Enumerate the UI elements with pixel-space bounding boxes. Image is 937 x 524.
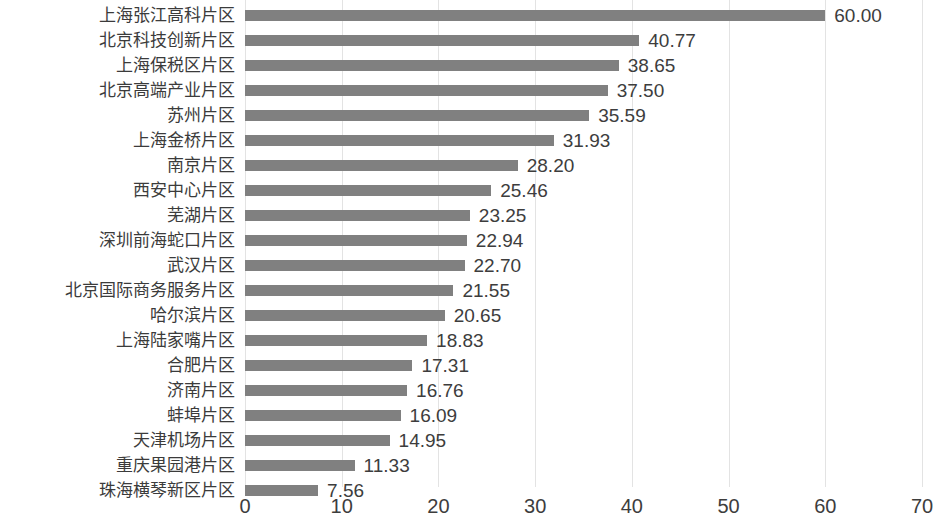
category-label: 上海保税区片区 xyxy=(0,53,235,78)
value-label: 18.83 xyxy=(436,328,484,353)
bar-row: 蚌埠片区16.09 xyxy=(0,403,937,428)
value-label: 16.09 xyxy=(410,403,458,428)
bar xyxy=(245,285,453,296)
bar xyxy=(245,210,470,221)
category-label: 蚌埠片区 xyxy=(0,403,235,428)
value-label: 38.65 xyxy=(628,53,676,78)
value-label: 22.94 xyxy=(476,228,524,253)
value-label: 37.50 xyxy=(617,78,665,103)
bar-row: 重庆果园港片区11.33 xyxy=(0,453,937,478)
category-label: 合肥片区 xyxy=(0,353,235,378)
bar-row: 上海陆家嘴片区18.83 xyxy=(0,328,937,353)
bar xyxy=(245,85,608,96)
bar xyxy=(245,460,355,471)
category-label: 南京片区 xyxy=(0,153,235,178)
bar xyxy=(245,335,427,346)
value-label: 20.65 xyxy=(454,303,502,328)
value-label: 31.93 xyxy=(563,128,611,153)
category-label: 深圳前海蛇口片区 xyxy=(0,228,235,253)
bar-row: 武汉片区22.70 xyxy=(0,253,937,278)
bar-row: 苏州片区35.59 xyxy=(0,103,937,128)
bar-row: 深圳前海蛇口片区22.94 xyxy=(0,228,937,253)
bar xyxy=(245,135,554,146)
value-label: 60.00 xyxy=(834,3,882,28)
category-label: 哈尔滨片区 xyxy=(0,303,235,328)
category-label: 西安中心片区 xyxy=(0,178,235,203)
bar-row: 哈尔滨片区20.65 xyxy=(0,303,937,328)
bar xyxy=(245,60,619,71)
x-tick-label: 60 xyxy=(814,495,836,518)
bar-row: 南京片区28.20 xyxy=(0,153,937,178)
category-label: 上海金桥片区 xyxy=(0,128,235,153)
bar xyxy=(245,110,589,121)
category-label: 济南片区 xyxy=(0,378,235,403)
bar-row: 上海保税区片区38.65 xyxy=(0,53,937,78)
value-label: 40.77 xyxy=(648,28,696,53)
category-label: 武汉片区 xyxy=(0,253,235,278)
value-label: 21.55 xyxy=(462,278,510,303)
x-tick-label: 50 xyxy=(717,495,739,518)
bar xyxy=(245,35,639,46)
category-label: 北京国际商务服务片区 xyxy=(0,278,235,303)
x-axis: 010203040506070 xyxy=(0,487,937,524)
bar-row: 北京科技创新片区40.77 xyxy=(0,28,937,53)
x-tick-label: 30 xyxy=(524,495,546,518)
bar-row: 上海金桥片区31.93 xyxy=(0,128,937,153)
bar xyxy=(245,10,825,21)
bar-row: 天津机场片区14.95 xyxy=(0,428,937,453)
category-label: 上海陆家嘴片区 xyxy=(0,328,235,353)
value-label: 22.70 xyxy=(474,253,522,278)
category-label: 重庆果园港片区 xyxy=(0,453,235,478)
bar-row: 上海张江高科片区60.00 xyxy=(0,3,937,28)
value-label: 35.59 xyxy=(598,103,646,128)
category-label: 芜湖片区 xyxy=(0,203,235,228)
category-label: 苏州片区 xyxy=(0,103,235,128)
value-label: 28.20 xyxy=(527,153,575,178)
bar-row: 西安中心片区25.46 xyxy=(0,178,937,203)
category-label: 上海张江高科片区 xyxy=(0,3,235,28)
x-tick-label: 70 xyxy=(911,495,933,518)
bar-chart: 上海张江高科片区60.00北京科技创新片区40.77上海保税区片区38.65北京… xyxy=(0,0,937,524)
bar-row: 芜湖片区23.25 xyxy=(0,203,937,228)
value-label: 16.76 xyxy=(416,378,464,403)
category-label: 北京科技创新片区 xyxy=(0,28,235,53)
bar xyxy=(245,235,467,246)
bar-row: 济南片区16.76 xyxy=(0,378,937,403)
x-tick-label: 10 xyxy=(331,495,353,518)
bar xyxy=(245,385,407,396)
bar xyxy=(245,435,390,446)
x-tick-label: 20 xyxy=(427,495,449,518)
value-label: 11.33 xyxy=(364,453,410,478)
bar xyxy=(245,160,518,171)
bar xyxy=(245,185,491,196)
bar xyxy=(245,410,401,421)
value-label: 17.31 xyxy=(421,353,469,378)
bar-row: 北京国际商务服务片区21.55 xyxy=(0,278,937,303)
category-label: 北京高端产业片区 xyxy=(0,78,235,103)
x-tick-label: 0 xyxy=(239,495,250,518)
bar-row: 合肥片区17.31 xyxy=(0,353,937,378)
category-label: 天津机场片区 xyxy=(0,428,235,453)
x-tick-label: 40 xyxy=(621,495,643,518)
bar-rows: 上海张江高科片区60.00北京科技创新片区40.77上海保税区片区38.65北京… xyxy=(0,0,937,487)
bar xyxy=(245,260,465,271)
value-label: 25.46 xyxy=(500,178,548,203)
bar xyxy=(245,360,412,371)
value-label: 23.25 xyxy=(479,203,527,228)
bar xyxy=(245,310,445,321)
value-label: 14.95 xyxy=(399,428,447,453)
bar-row: 北京高端产业片区37.50 xyxy=(0,78,937,103)
